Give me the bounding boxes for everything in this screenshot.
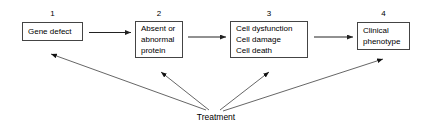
step-number-2: 2 [135, 9, 183, 18]
node-box-line: Gene defect [28, 26, 77, 37]
step-number-3: 3 [230, 9, 308, 18]
node-box-absent-abnormal-protein: Absent or abnormal protein [135, 21, 183, 58]
arrow-treatment-to-2 [161, 72, 209, 110]
step-number-1: 1 [22, 9, 83, 18]
node-box-clinical-phenotype: Clinical phenotype [357, 22, 410, 50]
node-box-line: Cell damage [236, 34, 302, 45]
arrow-treatment-to-4 [223, 59, 383, 111]
node-box-gene-defect: Gene defect [22, 22, 83, 41]
treatment-label: Treatment [185, 112, 247, 122]
node-box-cell-dysfunction: Cell dysfunction Cell damage Cell death [230, 21, 308, 58]
node-box-line: Cell dysfunction [236, 23, 302, 34]
node-box-line: phenotype [363, 36, 404, 47]
node-box-line: Cell death [236, 45, 302, 56]
node-box-line: Absent or [141, 23, 177, 34]
arrow-treatment-to-1 [51, 54, 206, 110]
node-box-line: Clinical [363, 25, 404, 36]
step-number-4: 4 [357, 9, 410, 18]
node-box-line: abnormal [141, 34, 177, 45]
flow-diagram: 1 2 3 4 Gene defect Absent or abnormal p… [0, 0, 429, 133]
node-box-line: protein [141, 45, 177, 56]
